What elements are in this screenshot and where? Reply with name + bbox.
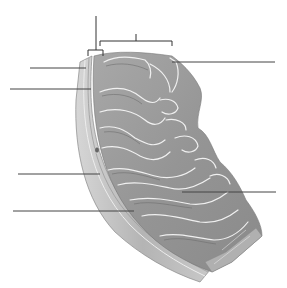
bracket-small: [88, 16, 103, 56]
vessel: [95, 147, 100, 153]
bracket-large: [100, 34, 172, 46]
stomach-wall-diagram: [0, 0, 287, 288]
mucosa-block: [93, 52, 262, 272]
